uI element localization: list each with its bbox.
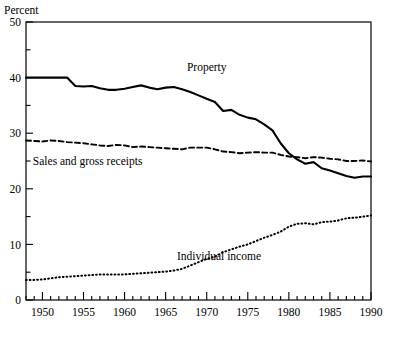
x-tick-label-1950: 1950: [31, 306, 54, 318]
state-tax-revenue-share-line-chart: Percent 01020304050 19501955196019651970…: [0, 0, 393, 339]
x-tick-label-1960: 1960: [113, 306, 136, 318]
x-tick-label-1980: 1980: [277, 306, 300, 318]
series-label-sales-and-gross-receipts: Sales and gross receipts: [33, 155, 143, 168]
y-axis-title: Percent: [4, 4, 39, 16]
x-tick-label-1975: 1975: [236, 306, 259, 318]
x-tick-label-1990: 1990: [360, 306, 383, 318]
y-tick-label-40: 40: [10, 72, 22, 84]
x-tick-label-1965: 1965: [154, 306, 177, 318]
x-tick-label-1985: 1985: [318, 306, 341, 318]
x-tick-label-1970: 1970: [195, 306, 218, 318]
y-tick-label-50: 50: [10, 16, 22, 28]
series-label-property: Property: [187, 61, 227, 74]
y-tick-label-10: 10: [10, 239, 22, 251]
series-label-individual-income: Individual income: [177, 250, 261, 262]
y-tick-label-0: 0: [15, 294, 21, 306]
x-tick-label-1955: 1955: [72, 306, 95, 318]
chart-container: Percent 01020304050 19501955196019651970…: [0, 0, 393, 339]
y-tick-label-20: 20: [10, 183, 22, 195]
chart-background: [0, 0, 393, 339]
x-axis-tick-labels: 195019551960196519701975198019851990: [31, 306, 383, 318]
y-tick-label-30: 30: [10, 127, 22, 139]
